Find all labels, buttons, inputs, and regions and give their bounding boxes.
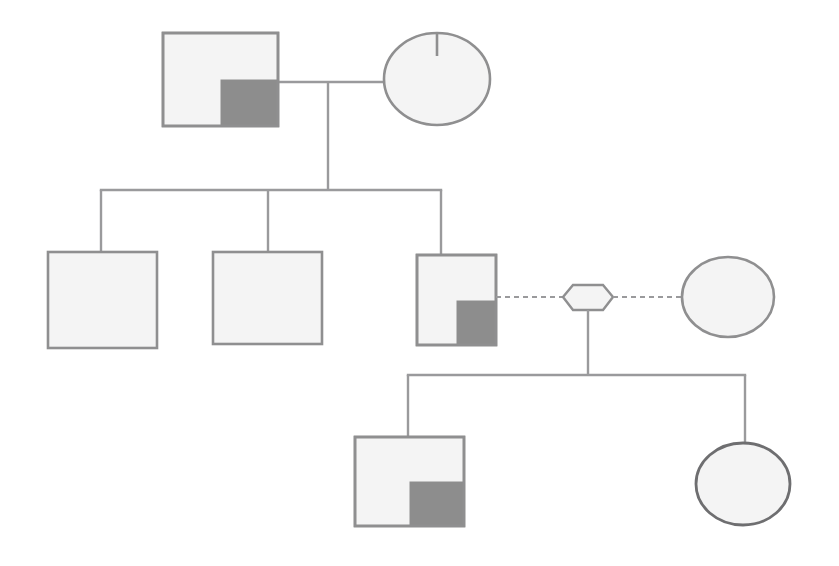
sibship-group-2 <box>407 375 746 444</box>
affected-quadrant-bottom-right <box>457 301 497 346</box>
symbol-circle-female <box>682 257 774 337</box>
affected-quadrant-bottom-right <box>221 80 279 127</box>
individual-ii-1[interactable] <box>48 252 157 348</box>
individual-ii-5[interactable] <box>682 257 774 337</box>
symbol-square-male <box>48 252 157 348</box>
individual-iii-2[interactable] <box>696 443 790 525</box>
pedigree-canvas <box>0 0 839 566</box>
symbol-hexagon-unknown <box>563 285 613 310</box>
individual-ii-4[interactable] <box>563 285 613 310</box>
symbol-square-male <box>213 252 322 344</box>
individual-i-2[interactable] <box>384 33 490 125</box>
individual-ii-3[interactable] <box>417 255 496 345</box>
symbol-circle-female <box>696 443 790 525</box>
affected-quadrant-bottom-right <box>410 482 465 527</box>
individual-i-1[interactable] <box>163 33 278 126</box>
generation-1-group <box>163 33 490 190</box>
individual-iii-1[interactable] <box>355 437 464 526</box>
generation-2-group <box>48 252 774 375</box>
sibship-group-1 <box>100 190 442 255</box>
pedigree-chart: Pedigree Chart <box>0 0 839 566</box>
individual-ii-2[interactable] <box>213 252 322 344</box>
generation-3-group <box>355 437 790 526</box>
